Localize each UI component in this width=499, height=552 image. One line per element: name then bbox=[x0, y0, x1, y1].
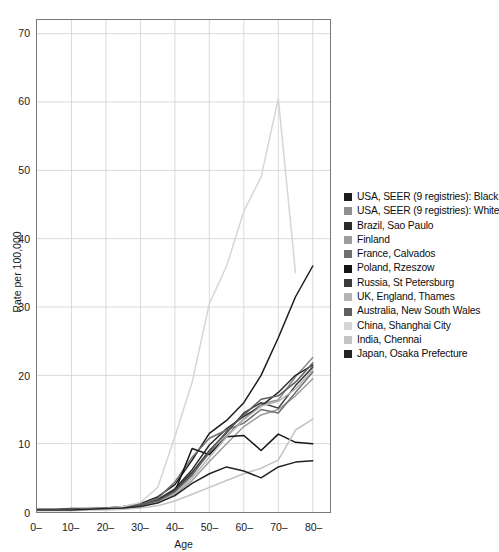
legend-swatch-icon bbox=[344, 293, 352, 301]
y-tick-label: 50 bbox=[0, 164, 30, 176]
legend-label: China, Shanghai City bbox=[357, 321, 451, 331]
legend-item[interactable]: USA, SEER (9 registries): Black bbox=[344, 190, 489, 204]
legend-swatch-icon bbox=[344, 308, 352, 316]
legend-item[interactable]: Russia, St Petersburg bbox=[344, 276, 489, 290]
x-tick-label: 30– bbox=[131, 521, 149, 533]
plot-area bbox=[36, 19, 331, 513]
x-tick-label: 0– bbox=[30, 521, 42, 533]
legend-label: Poland, Rzeszow bbox=[357, 263, 434, 273]
legend-label: Australia, New South Wales bbox=[357, 306, 480, 316]
legend-swatch-icon bbox=[344, 193, 352, 201]
legend-label: France, Calvados bbox=[357, 249, 435, 259]
y-tick-label: 0 bbox=[0, 507, 30, 519]
legend-swatch-icon bbox=[344, 265, 352, 273]
legend: USA, SEER (9 registries): BlackUSA, SEER… bbox=[344, 190, 489, 362]
series-line bbox=[37, 99, 296, 510]
legend-swatch-icon bbox=[344, 350, 352, 358]
legend-label: USA, SEER (9 registries): Black bbox=[357, 192, 498, 202]
legend-swatch-icon bbox=[344, 336, 352, 344]
y-tick-label: 20 bbox=[0, 370, 30, 382]
legend-item[interactable]: Brazil, Sao Paulo bbox=[344, 219, 489, 233]
legend-label: Russia, St Petersburg bbox=[357, 278, 454, 288]
y-tick-label: 30 bbox=[0, 301, 30, 313]
legend-item[interactable]: Poland, Rzeszow bbox=[344, 261, 489, 275]
legend-label: USA, SEER (9 registries): White bbox=[357, 206, 499, 216]
legend-label: UK, England, Thames bbox=[357, 292, 455, 302]
legend-swatch-icon bbox=[344, 207, 352, 215]
legend-swatch-icon bbox=[344, 322, 352, 330]
legend-item[interactable]: India, Chennai bbox=[344, 333, 489, 347]
legend-label: Japan, Osaka Prefecture bbox=[357, 349, 467, 359]
legend-item[interactable]: Finland bbox=[344, 233, 489, 247]
legend-swatch-icon bbox=[344, 250, 352, 258]
legend-item[interactable]: Australia, New South Wales bbox=[344, 304, 489, 318]
y-tick-label: 40 bbox=[0, 233, 30, 245]
legend-label: India, Chennai bbox=[357, 335, 421, 345]
x-tick-label: 40– bbox=[166, 521, 184, 533]
legend-item[interactable]: USA, SEER (9 registries): White bbox=[344, 204, 489, 218]
x-tick-label: 80– bbox=[305, 521, 323, 533]
legend-item[interactable]: Japan, Osaka Prefecture bbox=[344, 347, 489, 361]
x-tick-label: 60– bbox=[235, 521, 253, 533]
legend-item[interactable]: France, Calvados bbox=[344, 247, 489, 261]
legend-item[interactable]: China, Shanghai City bbox=[344, 319, 489, 333]
legend-label: Finland bbox=[357, 235, 390, 245]
y-tick-label: 70 bbox=[0, 27, 30, 39]
x-tick-label: 50– bbox=[201, 521, 219, 533]
x-tick-label: 70– bbox=[270, 521, 288, 533]
x-tick-label: 10– bbox=[62, 521, 80, 533]
x-tick-label: 20– bbox=[97, 521, 115, 533]
series-lines bbox=[37, 20, 330, 512]
x-axis-label: Age bbox=[36, 538, 331, 550]
legend-swatch-icon bbox=[344, 279, 352, 287]
legend-label: Brazil, Sao Paulo bbox=[357, 221, 433, 231]
y-tick-label: 60 bbox=[0, 95, 30, 107]
y-tick-label: 10 bbox=[0, 438, 30, 450]
legend-swatch-icon bbox=[344, 222, 352, 230]
legend-item[interactable]: UK, England, Thames bbox=[344, 290, 489, 304]
legend-swatch-icon bbox=[344, 236, 352, 244]
